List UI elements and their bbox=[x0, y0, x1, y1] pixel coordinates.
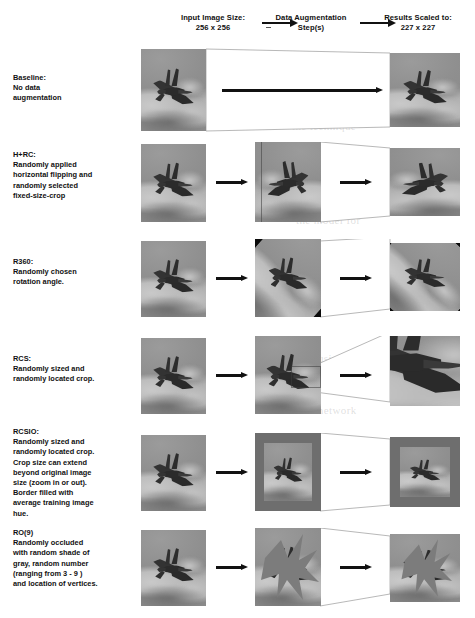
row-hrc: H+RC:Randomly appliedhorizontal flipping… bbox=[0, 142, 475, 224]
row-rcsio-label-line: Crop size can extend bbox=[13, 458, 135, 468]
row-r360-label-line: rotation angle. bbox=[13, 277, 135, 287]
row-r360-label-line: Randomly chosen bbox=[13, 267, 135, 277]
header-input-size: Input Image Size: 256 x 256 bbox=[168, 13, 258, 32]
header-result-line1: Results Scaled to: bbox=[368, 13, 468, 23]
baseline-input-image bbox=[141, 49, 206, 131]
header-input-size-line1: Input Image Size: bbox=[168, 13, 258, 23]
row-rcsio-label-line: average training image bbox=[13, 498, 135, 508]
row-rcs-label-line: RCS: bbox=[13, 354, 135, 364]
ro9-output-image bbox=[390, 534, 460, 602]
row-hrc-label-line: H+RC: bbox=[13, 150, 135, 160]
rcs-input-image bbox=[141, 338, 206, 414]
row-hrc-label-line: randomly selected bbox=[13, 181, 135, 191]
row-rcs-label-line: Randomly sized and bbox=[13, 364, 135, 374]
ro9-input-image bbox=[141, 530, 206, 606]
rcsio-input-image bbox=[141, 435, 206, 511]
header-result-line2: 227 x 227 bbox=[368, 23, 468, 33]
row-rcs: RCS:Randomly sized andrandomly located c… bbox=[0, 336, 475, 416]
row-baseline-label-line: augmentation bbox=[13, 93, 135, 103]
row-baseline-label-line: No data bbox=[13, 83, 135, 93]
header-results-scaled: Results Scaled to: 227 x 227 bbox=[368, 13, 468, 32]
row-r360: R360:Randomly chosenrotation angle. bbox=[0, 239, 475, 319]
row-rcsio-label-line: Randomly sized and bbox=[13, 437, 135, 447]
row-hrc-label-line: fixed-size-crop bbox=[13, 191, 135, 201]
header-aug-line2: Step(s) bbox=[262, 23, 360, 33]
rcs-augmented-image bbox=[255, 336, 321, 414]
ro9-occlusion-polygon bbox=[255, 528, 321, 606]
r360-output-image bbox=[390, 243, 460, 311]
row-rcs-label-line: randomly located crop. bbox=[13, 374, 135, 384]
row-rcsio-label: RCSIO:Randomly sized andrandomly located… bbox=[13, 427, 135, 519]
row-hrc-label: H+RC:Randomly appliedhorizontal flipping… bbox=[13, 150, 135, 201]
hrc-output-image bbox=[390, 148, 460, 216]
r360-input-image bbox=[141, 241, 206, 317]
row-hrc-label-line: horizontal flipping and bbox=[13, 170, 135, 180]
row-rcsio: RCSIO:Randomly sized andrandomly located… bbox=[0, 433, 475, 513]
row-rcsio-label-line: randomly located crop. bbox=[13, 447, 135, 457]
row-rcsio-label-line: hue. bbox=[13, 509, 135, 519]
row-baseline-label: Baseline:No dataaugmentation bbox=[13, 73, 135, 104]
row-baseline: Baseline:No dataaugmentation bbox=[0, 47, 475, 133]
rcs-output-image bbox=[390, 336, 460, 406]
row-rcsio-label-line: RCSIO: bbox=[13, 427, 135, 437]
row-ro9-label-line: and location of vertices. bbox=[13, 579, 135, 589]
header-aug-line1: Data Augmentation bbox=[262, 13, 360, 23]
row-ro9-label-line: gray, random number bbox=[13, 559, 135, 569]
ro9-augmented-image bbox=[255, 528, 321, 606]
ro9-output-occlusion-polygon bbox=[390, 534, 460, 602]
baseline-output-image bbox=[390, 53, 460, 127]
rcsio-augmented-image bbox=[255, 433, 321, 511]
header-input-size-line2: 256 x 256 bbox=[168, 23, 258, 33]
row-rcsio-label-line: Border filled with bbox=[13, 488, 135, 498]
row-hrc-label-line: Randomly applied bbox=[13, 160, 135, 170]
hrc-input-image bbox=[141, 144, 206, 222]
row-ro9-label-line: Randomly occluded bbox=[13, 538, 135, 548]
row-ro9: RO(9)Randomly occludedwith random shade … bbox=[0, 528, 475, 608]
r360-augmented-image bbox=[255, 239, 321, 317]
row-r360-label: R360:Randomly chosenrotation angle. bbox=[13, 257, 135, 288]
row-rcsio-label-line: beyond original image bbox=[13, 468, 135, 478]
hrc-crop-region bbox=[261, 142, 321, 222]
figure-header: Input Image Size: 256 x 256 Data Augment… bbox=[0, 0, 475, 46]
row-rcs-label: RCS:Randomly sized andrandomly located c… bbox=[13, 354, 135, 385]
rcs-crop-region bbox=[291, 366, 321, 388]
hrc-augmented-image bbox=[255, 142, 321, 222]
rcsio-output-image bbox=[390, 437, 460, 507]
row-r360-label-line: R360: bbox=[13, 257, 135, 267]
row-baseline-label-line: Baseline: bbox=[13, 73, 135, 83]
row-ro9-label-line: (ranging from 3 - 9 ) bbox=[13, 569, 135, 579]
row-ro9-label-line: RO(9) bbox=[13, 528, 135, 538]
header-augmentation-step: Data Augmentation Step(s) bbox=[262, 13, 360, 32]
row-ro9-label: RO(9)Randomly occludedwith random shade … bbox=[13, 528, 135, 589]
row-ro9-label-line: with random shade of bbox=[13, 548, 135, 558]
row-rcsio-label-line: size (zoom in or out). bbox=[13, 478, 135, 488]
